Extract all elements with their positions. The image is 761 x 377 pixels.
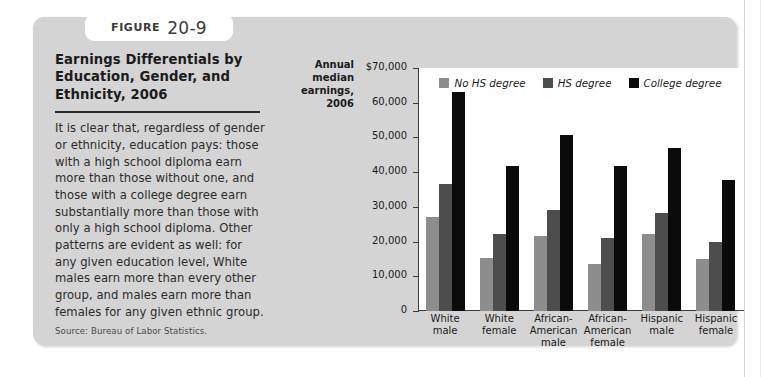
bar-1 [439, 184, 452, 311]
legend-label: No HS degree [454, 77, 525, 89]
bar-groups [418, 68, 743, 311]
y-axis-tick-label: 40,000 [337, 165, 407, 176]
category-label: Whitefemale [472, 313, 526, 350]
bar-0 [696, 259, 709, 311]
bar-1 [709, 242, 722, 311]
figure-number-tab: Figure 20-9 [85, 14, 233, 41]
bar-1 [601, 238, 614, 311]
bar-1 [547, 210, 560, 311]
category-label: African-Americanmale [526, 313, 580, 350]
bar-0 [642, 234, 655, 311]
bar-0 [588, 264, 601, 311]
bar-2 [722, 180, 735, 311]
y-axis-tick-label: 50,000 [337, 130, 407, 141]
figure-body-text: It is clear that, regardless of gender o… [55, 120, 267, 320]
bar-2 [560, 135, 573, 311]
category-label: Hispanicmale [635, 313, 689, 350]
legend-item: HS degree [543, 77, 612, 89]
bar-group [526, 68, 580, 311]
legend-swatch-icon [439, 78, 449, 88]
legend-label: College degree [644, 77, 722, 89]
legend-item: No HS degree [439, 77, 525, 89]
y-axis-tick [413, 311, 419, 312]
category-label: African-Americanfemale [581, 313, 635, 350]
category-labels: WhitemaleWhitefemaleAfrican-Americanmale… [418, 313, 743, 350]
legend-swatch-icon [629, 78, 639, 88]
category-label: Hispanicfemale [689, 313, 743, 350]
category-label: Whitemale [418, 313, 472, 350]
figure-source: Source: Bureau of Labor Statistics. [55, 326, 267, 336]
chart-legend: No HS degreeHS degreeCollege degree [418, 68, 743, 98]
bar-0 [480, 258, 493, 311]
figure-tab-number: 20-9 [167, 18, 207, 38]
bar-group [472, 68, 526, 311]
figure-card: Figure 20-9 Earnings Differentials by Ed… [33, 17, 736, 345]
chart-area: $70,00060,00050,00040,00030,00020,00010,… [362, 60, 747, 320]
y-axis-tick-label: $70,000 [337, 61, 407, 72]
y-axis-tick-label: 30,000 [337, 200, 407, 211]
bar-2 [614, 166, 627, 311]
bar-group [635, 68, 689, 311]
bar-1 [655, 213, 668, 311]
figure-tab-word: Figure [111, 21, 160, 34]
figure-title: Earnings Differentials by Education, Gen… [55, 51, 267, 103]
legend-swatch-icon [543, 78, 553, 88]
figure-text-column: Earnings Differentials by Education, Gen… [55, 51, 267, 336]
bar-2 [452, 92, 465, 311]
legend-item: College degree [629, 77, 722, 89]
y-axis-tick-label: 20,000 [337, 235, 407, 246]
bar-group [418, 68, 472, 311]
bar-group [581, 68, 635, 311]
bar-0 [426, 217, 439, 311]
bar-group [689, 68, 743, 311]
bar-2 [506, 166, 519, 311]
y-axis-tick-label: 0 [337, 304, 407, 315]
bar-1 [493, 234, 506, 311]
y-axis-tick-label: 60,000 [337, 96, 407, 107]
bar-2 [668, 148, 681, 311]
legend-label: HS degree [558, 77, 612, 89]
bar-0 [534, 236, 547, 311]
title-divider [55, 111, 260, 113]
y-axis-tick-label: 10,000 [337, 269, 407, 280]
